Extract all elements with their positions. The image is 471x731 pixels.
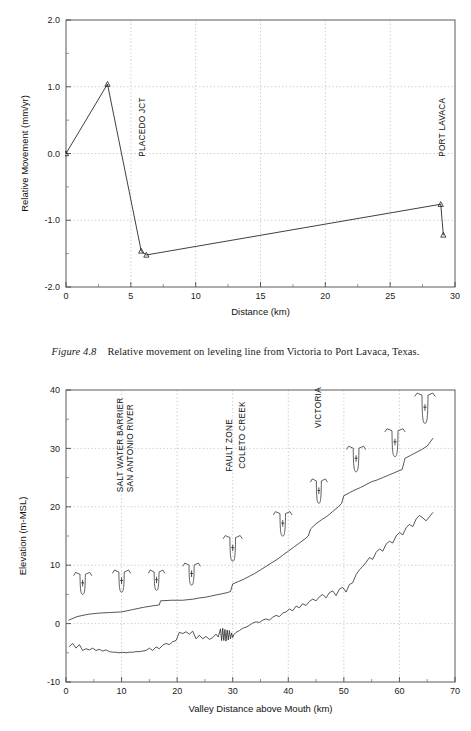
chart-annotation: COLETO CREEK [238, 401, 247, 469]
y-tick-label: 30 [50, 444, 60, 454]
y-tick-label: 40 [50, 385, 60, 395]
x-tick-label: 0 [63, 686, 68, 696]
x-tick-label: 5 [128, 291, 133, 301]
y-axis-title: Elevation (m-MSL) [17, 497, 28, 576]
chart-annotation: FAULT ZONE [225, 419, 234, 472]
x-tick-label: 70 [450, 686, 460, 696]
x-tick-label: 30 [228, 686, 238, 696]
y-tick-label: -10 [47, 677, 60, 687]
figure-page: 051015202530-2.0-1.00.01.02.0Distance (k… [0, 0, 471, 731]
x-tick-label: 25 [385, 291, 395, 301]
x-tick-label: 20 [320, 291, 330, 301]
y-axis-title: Relative Movement (mm/yr) [19, 95, 30, 212]
x-tick-label: 10 [191, 291, 201, 301]
x-tick-label: 15 [255, 291, 265, 301]
y-tick-label: 20 [50, 502, 60, 512]
valley-profile-svg: 010203040506070-10010203040Valley Distan… [0, 372, 471, 731]
x-tick-label: 40 [283, 686, 293, 696]
x-axis-title: Distance (km) [231, 306, 290, 317]
y-tick-label: -2.0 [44, 282, 60, 292]
relative-movement-chart: 051015202530-2.0-1.00.01.02.0Distance (k… [0, 0, 471, 332]
x-tick-label: 20 [172, 686, 182, 696]
chart-annotation: PORT LAVACA [438, 97, 447, 156]
x-tick-label: 30 [450, 291, 460, 301]
y-tick-label: 2.0 [47, 15, 60, 25]
y-tick-label: 0.0 [47, 149, 60, 159]
x-tick-label: 0 [63, 291, 68, 301]
axis-ticks: 051015202530-2.0-1.00.01.02.0 [44, 15, 460, 301]
y-tick-label: 1.0 [47, 82, 60, 92]
y-tick-label: -1.0 [44, 215, 60, 225]
x-tick-label: 10 [117, 686, 127, 696]
x-tick-label: 60 [394, 686, 404, 696]
figure-number: Figure 4.8 [52, 346, 97, 357]
gridlines [66, 20, 455, 287]
chart-annotation: PLACEDO JCT [138, 97, 147, 157]
chart-annotation: SAN ANTONIO RIVER [126, 404, 135, 492]
figure-caption-text: Relative movement on leveling line from … [107, 346, 419, 357]
chart-annotation: VICTORIA [314, 387, 323, 428]
y-tick-label: 10 [50, 560, 60, 570]
figure-caption: Figure 4.8 Relative movement on leveling… [0, 346, 471, 357]
x-tick-label: 50 [339, 686, 349, 696]
data-series-line [66, 84, 443, 255]
relative-movement-svg: 051015202530-2.0-1.00.01.02.0Distance (k… [0, 0, 471, 332]
x-axis-title: Valley Distance above Mouth (km) [189, 703, 333, 714]
chart-annotation: SALT WATER BARRIER [116, 397, 125, 492]
y-tick-label: 0 [55, 619, 60, 629]
valley-profile-chart: 010203040506070-10010203040Valley Distan… [0, 372, 471, 731]
plot-content [63, 81, 446, 257]
